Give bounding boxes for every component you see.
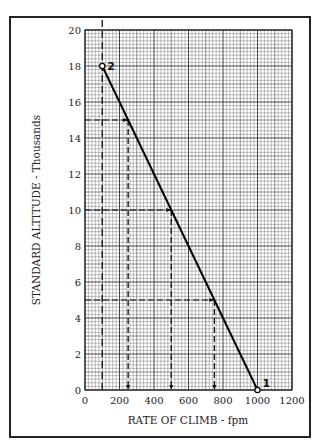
x-tick-label: 400 <box>144 395 163 406</box>
x-axis-label: RATE OF CLIMB - fpm <box>128 414 249 426</box>
y-tick-label: 8 <box>75 241 81 252</box>
x-tick-label: 600 <box>179 395 198 406</box>
x-tick-label: 1200 <box>279 395 304 406</box>
y-tick-label: 6 <box>75 277 81 288</box>
x-tick-label: 200 <box>110 395 129 406</box>
y-tick-label: 18 <box>68 61 81 72</box>
y-axis-label: STANDARD ALTITUDE - Thousands <box>30 115 42 305</box>
y-tick-label: 10 <box>68 205 81 216</box>
point-label: 1 <box>263 377 271 390</box>
x-tick-label: 0 <box>82 395 88 406</box>
arrow-head <box>212 385 216 390</box>
y-tick-label: 0 <box>75 385 81 396</box>
y-tick-label: 4 <box>75 313 81 324</box>
point-label: 2 <box>107 60 115 73</box>
data-point <box>100 63 105 68</box>
y-tick-label: 16 <box>68 97 81 108</box>
ticks: 02004006008001000120002468101214161820 <box>68 25 304 406</box>
arrow-head <box>126 385 130 390</box>
y-tick-label: 12 <box>68 169 81 180</box>
arrow-head <box>169 385 173 390</box>
x-tick-label: 800 <box>213 395 232 406</box>
y-tick-label: 20 <box>68 25 81 36</box>
y-tick-label: 2 <box>75 349 81 360</box>
x-tick-label: 1000 <box>245 395 270 406</box>
y-tick-label: 14 <box>68 133 81 144</box>
data-point <box>255 387 260 392</box>
chart: 12 0200400600800100012000246810121416182… <box>0 0 324 448</box>
